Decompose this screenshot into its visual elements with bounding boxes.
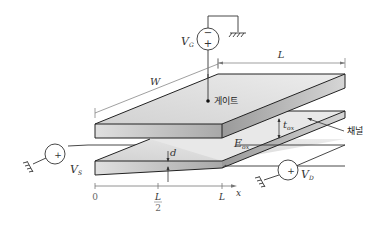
width-label: W <box>150 76 161 87</box>
gate-source-plus: + <box>204 38 212 49</box>
length-dimension: L <box>218 49 345 68</box>
vg-label: VG <box>181 35 194 48</box>
x-tick-label-half-den: 2 <box>155 203 161 213</box>
drain-wire <box>296 145 345 166</box>
vs-label: VS <box>70 163 82 176</box>
gate-front-face <box>95 124 222 138</box>
source-ground-wire <box>33 158 46 164</box>
length-label: L <box>277 49 285 60</box>
channel-label: 채널 <box>347 126 363 136</box>
drain-polarity: + <box>287 166 295 176</box>
x-tick-label-0: 0 <box>92 192 98 202</box>
vd-label: VD <box>301 168 314 181</box>
x-tick-label-half-num: L <box>154 192 161 202</box>
ground-icon <box>229 33 246 37</box>
x-axis-label: x <box>236 188 241 198</box>
gate-label: 게이트 <box>214 96 238 106</box>
gate-contact-dot <box>206 99 210 103</box>
mosfet-diagram: − + VG W L + VS <box>0 0 381 225</box>
source-polarity: + <box>54 150 62 160</box>
x-axis: 0 L 2 L x <box>92 183 241 213</box>
channel-front-face <box>95 161 222 175</box>
d-label: d <box>170 147 176 158</box>
source-ground-icon <box>23 161 33 172</box>
x-tick-label-l: L <box>218 192 225 202</box>
gate-source-minus: − <box>204 27 212 38</box>
drain-ground-wire <box>264 175 279 180</box>
drain-ground-icon <box>255 176 265 187</box>
